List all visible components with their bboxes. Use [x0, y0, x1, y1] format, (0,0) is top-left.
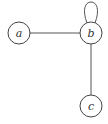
node-c: c	[80, 95, 102, 117]
graph-diagram: a b c	[0, 0, 108, 124]
node-b: b	[80, 22, 102, 44]
node-b-label: b	[87, 27, 94, 40]
node-c-label: c	[88, 100, 94, 113]
node-a-label: a	[16, 27, 23, 40]
edge-b-self-loop	[84, 2, 97, 23]
node-a: a	[8, 22, 30, 44]
